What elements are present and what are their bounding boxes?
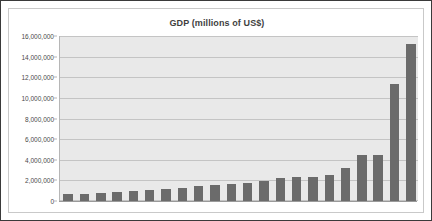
bar: [325, 175, 334, 201]
bar: [80, 194, 89, 201]
category-axis: [59, 201, 417, 202]
y-axis-tick-mark: [54, 118, 57, 119]
bar: [145, 190, 154, 201]
screenshot-frame: GDP (millions of US$) 16,000,00014,000,0…: [0, 0, 432, 221]
chart-area[interactable]: GDP (millions of US$) 16,000,00014,000,0…: [8, 8, 424, 213]
y-axis-tick-mark: [54, 180, 57, 181]
y-axis-tick-mark: [54, 77, 57, 78]
bar: [194, 186, 203, 201]
y-axis-tick-mark: [54, 159, 57, 160]
value-axis: 16,000,00014,000,00012,000,00010,000,000…: [9, 36, 57, 201]
y-axis-tick-label: 10,000,000: [21, 94, 54, 101]
y-axis-tick-label: 8,000,000: [25, 115, 54, 122]
y-axis-tick-mark: [54, 97, 57, 98]
bar: [292, 177, 301, 201]
y-axis-tick-label: 4,000,000: [25, 156, 54, 163]
bar: [129, 191, 138, 201]
y-axis-tick-label: 6,000,000: [25, 136, 54, 143]
bar: [341, 168, 350, 201]
y-axis-tick-label: 12,000,000: [21, 74, 54, 81]
y-axis-tick-mark: [54, 56, 57, 57]
y-axis-tick-label: 14,000,000: [21, 53, 54, 60]
plot-area: [59, 36, 418, 201]
bar: [308, 177, 317, 201]
y-axis-tick-mark: [54, 201, 57, 202]
bar: [406, 44, 415, 201]
bar: [259, 181, 268, 201]
bar: [276, 178, 285, 201]
bar: [243, 183, 252, 201]
bar: [112, 192, 121, 201]
y-axis-tick-label: 2,000,000: [25, 177, 54, 184]
bar: [96, 193, 105, 201]
bar: [178, 188, 187, 201]
y-axis-tick-mark: [54, 36, 57, 37]
bar: [210, 185, 219, 201]
bar: [227, 184, 236, 201]
bar: [357, 155, 366, 201]
bar: [161, 189, 170, 201]
y-axis-tick-mark: [54, 139, 57, 140]
bar: [390, 84, 399, 201]
bar: [63, 194, 72, 201]
y-axis-tick-label: 16,000,000: [21, 33, 54, 40]
bar: [373, 155, 382, 201]
chart-title: GDP (millions of US$): [9, 18, 425, 28]
bar-series: [60, 36, 418, 201]
